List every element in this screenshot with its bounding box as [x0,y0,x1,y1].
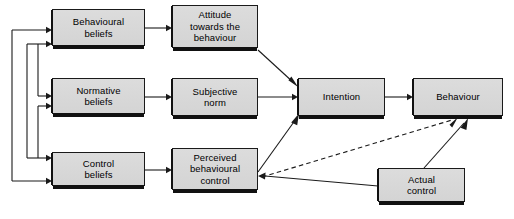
edge-actual-control-to-perceived-control [265,176,378,186]
edge-attitude-to-intention [258,50,294,83]
node-intention[interactable]: Intention [298,78,385,116]
node-subjective-norm[interactable]: Subjective norm [172,78,258,116]
edge-actual-control-to-behaviour [424,123,464,168]
node-behavioural-beliefs-label: Behavioural beliefs [70,16,127,39]
node-behavioural-beliefs[interactable]: Behavioural beliefs [52,9,145,46]
node-perceived-behavioural-control[interactable]: Perceived behavioural control [172,148,258,190]
node-behaviour[interactable]: Behaviour [413,78,503,116]
diagram-canvas: Behavioural beliefs Attitude towards the… [0,0,514,219]
arrowhead-behaviour-from-actual-control [461,118,468,130]
node-actual-control[interactable]: Actual control [378,168,465,202]
arrowhead-perceived-control-from-actual [258,173,266,180]
node-normative-beliefs[interactable]: Normative beliefs [52,78,145,114]
node-control-beliefs[interactable]: Control beliefs [52,152,145,186]
edge-perceived-control-to-intention [258,119,296,172]
node-perceived-control-label: Perceived behavioural control [187,152,243,187]
node-intention-label: Intention [320,91,363,103]
node-behaviour-label: Behaviour [433,91,483,103]
node-attitude-towards-the-behaviour[interactable]: Attitude towards the behaviour [172,5,258,48]
node-control-beliefs-label: Control beliefs [80,158,117,181]
node-subjective-norm-label: Subjective norm [190,86,241,109]
node-attitude-label: Attitude towards the behaviour [187,9,243,44]
node-normative-beliefs-label: Normative beliefs [73,85,123,108]
node-actual-control-label: Actual control [404,174,439,197]
